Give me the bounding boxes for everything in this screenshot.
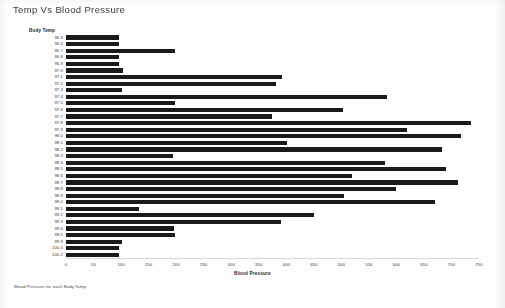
bar (66, 134, 461, 138)
bar (66, 42, 119, 46)
y-axis-title: Body Temp (29, 28, 55, 33)
y-tick-label: 100.2 (0, 252, 63, 257)
bar (66, 161, 385, 165)
y-tick-label: 98.5 (0, 166, 63, 171)
bar (66, 194, 344, 198)
bar (66, 174, 352, 178)
bar (66, 187, 396, 191)
bar (66, 75, 282, 79)
y-tick-label: 96.4 (0, 41, 63, 46)
bar (66, 147, 442, 151)
bar (66, 95, 387, 99)
y-tick-label: 96.3 (0, 35, 63, 40)
y-tick-label: 98.0 (0, 133, 63, 138)
y-tick-label: 99.9 (0, 239, 63, 244)
y-tick-label: 96.8 (0, 54, 63, 59)
y-tick-label: 99.4 (0, 226, 63, 231)
x-tick-label: 700 (448, 262, 455, 267)
y-tick-label: 97.9 (0, 127, 63, 132)
y-tick-label: 99.2 (0, 212, 63, 217)
y-tick-label: 99.5 (0, 232, 63, 237)
y-tick-label: 97.7 (0, 114, 63, 119)
x-tick-label: 450 (310, 262, 317, 267)
y-tick-label: 98.2 (0, 147, 63, 152)
bar (66, 253, 119, 257)
y-tick-label: 97.0 (0, 68, 63, 73)
x-tick-label: 500 (338, 262, 345, 267)
x-tick-label: 300 (228, 262, 235, 267)
bar (66, 180, 458, 184)
bar (66, 167, 446, 171)
x-tick-label: 550 (365, 262, 372, 267)
bar (66, 101, 175, 105)
y-tick-label: 97.2 (0, 81, 63, 86)
bar (66, 207, 139, 211)
y-tick-label: 98.3 (0, 153, 63, 158)
y-tick-label: 99.1 (0, 206, 63, 211)
chart-page: Temp Vs Blood Pressure Body Temp Blood P… (0, 0, 505, 308)
bar (66, 240, 122, 244)
x-tick-label: 50 (91, 262, 96, 267)
bar (66, 82, 276, 86)
bar (66, 128, 407, 132)
x-tick-label: 0 (65, 262, 67, 267)
bar (66, 35, 119, 39)
bar (66, 246, 119, 250)
x-tick-label: 400 (283, 262, 290, 267)
y-tick-label: 96.9 (0, 61, 63, 66)
bar (66, 154, 173, 158)
bar-row (66, 251, 479, 258)
x-tick-label: 200 (172, 262, 179, 267)
y-tick-label: 97.4 (0, 94, 63, 99)
footer-note: Blood Pressure for each Body Temp (14, 284, 86, 289)
y-tick-label: 98.4 (0, 160, 63, 165)
bar (66, 108, 343, 112)
y-tick-label: 98.8 (0, 186, 63, 191)
bar (66, 55, 119, 59)
bar (66, 88, 122, 92)
y-tick-label: 97.1 (0, 74, 63, 79)
y-tick-label: 96.7 (0, 48, 63, 53)
bar (66, 233, 175, 237)
bar (66, 226, 174, 230)
bar (66, 121, 471, 125)
bar (66, 141, 287, 145)
y-tick-label: 98.9 (0, 193, 63, 198)
bar (66, 49, 175, 53)
x-tick-label: 100 (117, 262, 124, 267)
bar (66, 114, 272, 118)
bar (66, 213, 314, 217)
x-tick-label: 350 (255, 262, 262, 267)
y-tick-label: 98.1 (0, 140, 63, 145)
x-tick-label: 600 (393, 262, 400, 267)
y-tick-label: 97.6 (0, 107, 63, 112)
x-tick-label: 250 (200, 262, 207, 267)
y-tick-label: 100.0 (0, 245, 63, 250)
y-tick-label: 97.3 (0, 87, 63, 92)
page-title: Temp Vs Blood Pressure (13, 4, 125, 15)
y-tick-label: 97.5 (0, 100, 63, 105)
y-tick-label: 98.7 (0, 180, 63, 185)
x-axis-title: Blood Pressure (0, 271, 505, 276)
y-tick-label: 97.8 (0, 120, 63, 125)
bar (66, 220, 281, 224)
bar (66, 62, 119, 66)
y-tick-label: 99.3 (0, 219, 63, 224)
x-tick-label: 750 (475, 262, 482, 267)
x-tick-label: 650 (420, 262, 427, 267)
y-tick-label: 98.6 (0, 173, 63, 178)
bar (66, 68, 123, 72)
y-tick-label: 99.0 (0, 199, 63, 204)
x-tick-label: 150 (145, 262, 152, 267)
plot-area (66, 34, 479, 258)
bar (66, 200, 435, 204)
